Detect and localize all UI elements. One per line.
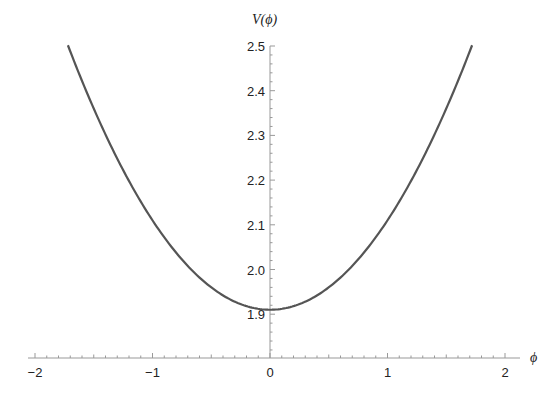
x-tick-label: −2 <box>28 365 43 380</box>
x-tick-label: 1 <box>384 365 391 380</box>
y-tick-label: 2.5 <box>247 39 265 54</box>
x-tick-label: 0 <box>266 365 273 380</box>
y-tick-label: 2.1 <box>247 218 265 233</box>
y-tick-label: 2.2 <box>247 173 265 188</box>
potential-plot: −2−10121.92.02.12.22.32.42.5 ϕ V(ϕ) <box>0 0 554 399</box>
x-tick-label: 2 <box>501 365 508 380</box>
y-axis-label: V(ϕ) <box>252 12 277 28</box>
axes: −2−10121.92.02.12.22.32.42.5 <box>28 39 520 380</box>
x-tick-label: −1 <box>145 365 160 380</box>
y-tick-label: 2.0 <box>247 263 265 278</box>
y-tick-label: 2.4 <box>247 84 265 99</box>
x-axis-label: ϕ <box>530 350 537 365</box>
y-tick-label: 2.3 <box>247 128 265 143</box>
